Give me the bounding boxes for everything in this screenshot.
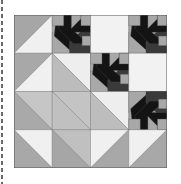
quilt-cell-r4c2 (52, 130, 90, 168)
quilt-cell-r3c3 (91, 92, 129, 130)
star-notch-tl (52, 15, 63, 26)
quilt-block (14, 15, 167, 168)
quilt-cell-r4c4 (129, 130, 167, 168)
star-notch-r (159, 99, 167, 109)
star-notch-tr (157, 15, 167, 26)
quilt-cell-r2c2 (52, 53, 90, 91)
quilt-cell-r2c1 (14, 53, 52, 91)
quilt-cell-r4c3 (91, 130, 129, 168)
star-notch-tr (81, 15, 91, 26)
star-notch-tr (119, 53, 129, 64)
star-notch-tl (91, 53, 102, 64)
star-notch-r (82, 36, 90, 46)
maple-leaf-star (129, 92, 167, 130)
star-notch-r (159, 36, 167, 46)
dashed-edge-marker (1, 0, 3, 184)
quilt-cell-r2c4 (129, 53, 167, 91)
quilt-cell-r3c2 (52, 92, 90, 130)
quilt-cell-r1c4 (129, 15, 167, 53)
quilt-cell-r1c2 (52, 15, 90, 53)
solid-square (129, 53, 167, 91)
solid-square (91, 15, 129, 53)
quilt-cell-r2c3 (91, 53, 129, 91)
star-notch-tr (157, 119, 167, 130)
quilt-cell-r4c1 (14, 130, 52, 168)
star-notch-r (120, 74, 128, 84)
quilt-cell-r1c1 (14, 15, 52, 53)
star-notch-tl (129, 119, 140, 130)
quilt-grid (14, 15, 167, 168)
quilt-cell-r3c4 (129, 92, 167, 130)
quilt-cell-r3c1 (14, 92, 52, 130)
star-notch-tl (129, 15, 140, 26)
maple-leaf-star (52, 15, 90, 53)
maple-leaf-star (129, 15, 167, 53)
maple-leaf-star (91, 53, 129, 91)
quilt-cell-r1c3 (91, 15, 129, 53)
